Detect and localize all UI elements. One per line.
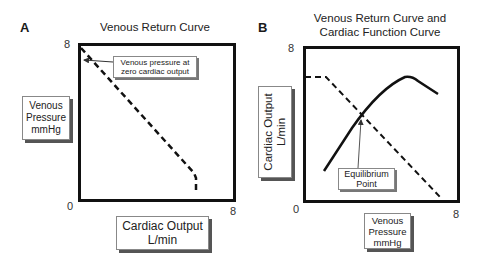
panel-a-venous-return-curve bbox=[81, 48, 196, 194]
curves-layer bbox=[0, 0, 477, 267]
panel-a-callout-arrow bbox=[84, 60, 113, 62]
panel-b-venous-return-curve bbox=[305, 77, 441, 198]
panel-b-equilibrium-arrow bbox=[358, 120, 361, 168]
panel-b-cardiac-function-curve bbox=[324, 77, 438, 171]
